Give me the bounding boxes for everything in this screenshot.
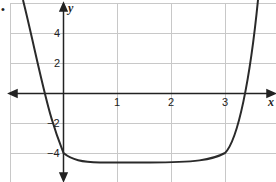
x-tick-3: 3 — [222, 96, 228, 108]
x-axis — [9, 90, 275, 97]
y-tick-2: 2 — [54, 57, 60, 69]
y-tick-neg4: −4 — [47, 147, 60, 159]
x-axis-label: x — [267, 95, 274, 109]
y-tick-4: 4 — [54, 27, 60, 39]
y-tick-neg2: −2 — [47, 117, 60, 129]
x-tick-2: 2 — [168, 96, 174, 108]
bullet-marker: • — [1, 3, 5, 15]
function-graph: y x 1 2 3 4 2 −2 −4 • — [0, 0, 276, 182]
y-axis-label: y — [66, 1, 74, 15]
y-axis-up-arrow-icon — [60, 3, 67, 11]
function-curve — [23, 0, 258, 163]
y-axis-down-arrow-icon — [60, 173, 67, 181]
x-tick-1: 1 — [114, 96, 120, 108]
